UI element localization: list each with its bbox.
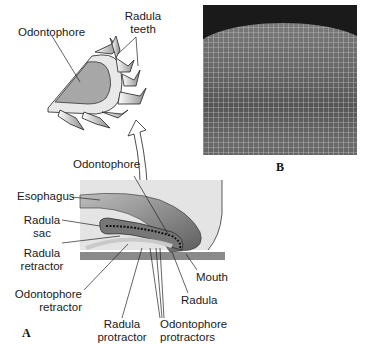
label-line: protractor: [94, 331, 150, 344]
label-odontophore-protractors: Odontophore protractors: [160, 318, 227, 344]
label-line: teeth: [123, 23, 163, 36]
panel-letter-a: A: [22, 326, 31, 341]
label-line: Radula: [14, 247, 70, 260]
label-mouth: Mouth: [196, 271, 228, 284]
panel-letter-b: B: [276, 160, 284, 175]
label-esophagus: Esophagus: [17, 190, 75, 203]
label-odontophore: Odontophore: [73, 158, 140, 171]
label-radula: Radula: [181, 294, 217, 307]
inset-label-odontophore: Odontophore: [18, 26, 85, 39]
label-radula-retractor: Radula retractor: [14, 247, 70, 273]
label-line: protractors: [160, 331, 227, 344]
label-line: Odontophore: [14, 288, 82, 301]
label-line: Radula: [123, 10, 163, 23]
radula-micrograph: [203, 5, 357, 155]
label-line: sac: [20, 227, 64, 240]
label-line: Odontophore: [160, 318, 227, 331]
label-line: retractor: [14, 301, 82, 314]
inset-label-radula-teeth: Radula teeth: [123, 10, 163, 36]
label-line: Radula: [20, 214, 64, 227]
label-line: retractor: [14, 260, 70, 273]
inset-odontophore-illustration: [48, 36, 146, 130]
label-radula-sac: Radula sac: [20, 214, 64, 240]
label-odontophore-retractor: Odontophore retractor: [14, 288, 82, 314]
radula-teeth-rows: [203, 23, 357, 155]
label-line: Radula: [94, 318, 150, 331]
label-radula-protractor: Radula protractor: [94, 318, 150, 344]
